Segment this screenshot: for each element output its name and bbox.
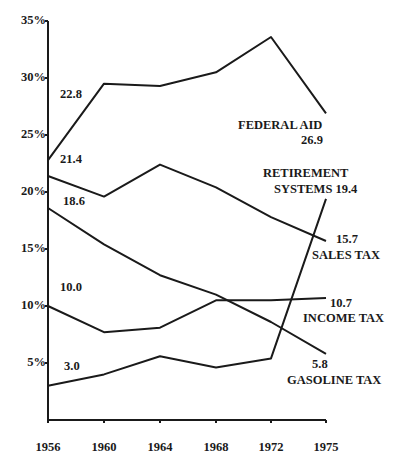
y-tick-label: 15%: [21, 241, 46, 256]
sales-tax-end-value: 15.7: [336, 232, 358, 246]
x-tick-label: 1956: [36, 440, 61, 455]
retirement-series-label: RETIREMENT: [263, 166, 348, 180]
federal-aid-series-label: FEDERAL AID: [238, 118, 322, 132]
income-tax-start-label: 10.0: [60, 280, 82, 294]
sales-tax-series-label: SALES TAX: [312, 248, 380, 262]
gasoline-tax-end-value: 5.8: [312, 357, 328, 371]
y-tick-label: 35%: [21, 13, 46, 28]
gasoline-tax-line: [48, 208, 326, 354]
federal-aid-start-label: 22.8: [60, 87, 82, 101]
gasoline-tax-start-label: 18.6: [63, 194, 85, 208]
y-tick-label: 10%: [21, 298, 46, 313]
income-tax-end-value: 10.7: [330, 296, 352, 310]
income-tax-line: [48, 298, 326, 332]
federal-aid-end-value: 26.9: [301, 133, 323, 147]
x-tick-label: 1968: [204, 440, 229, 455]
retirement-series-label-line2: SYSTEMS 19.4: [274, 182, 357, 196]
retirement-start-label: 3.0: [64, 359, 80, 373]
x-tick-label: 1960: [92, 440, 117, 455]
y-tick-label: 5%: [27, 355, 46, 370]
y-tick-label: 30%: [21, 70, 46, 85]
y-tick-label: 20%: [21, 184, 46, 199]
x-tick-label: 1972: [259, 440, 284, 455]
income-tax-series-label: INCOME TAX: [303, 311, 384, 325]
federal-aid-line: [48, 37, 326, 160]
sales-tax-start-label: 21.4: [60, 152, 82, 166]
x-tick-label: 1964: [148, 440, 173, 455]
x-tick-label: 1975: [314, 440, 339, 455]
y-tick-label: 25%: [21, 127, 46, 142]
gasoline-tax-series-label: GASOLINE TAX: [287, 373, 381, 387]
retirement-systems-line: [48, 199, 326, 386]
